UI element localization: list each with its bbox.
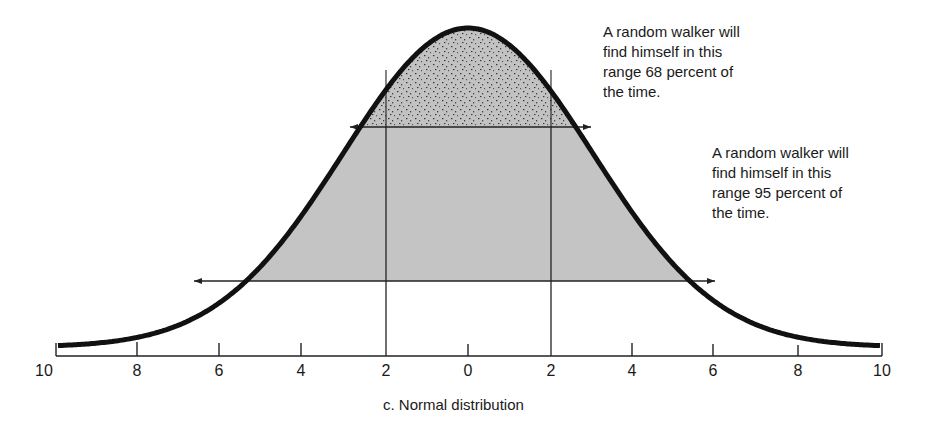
tick-label: 6 [215, 362, 224, 380]
tick-label: 4 [628, 362, 637, 380]
annotation-line: the time. [712, 203, 849, 223]
annotation-line: find himself in this [712, 163, 849, 183]
annotation-line: find himself in this [603, 42, 740, 62]
tick-label: 0 [464, 362, 473, 380]
tick-label: 6 [709, 362, 718, 380]
tick-label: 10 [35, 362, 53, 380]
annotation-68-percent: A random walker will find himself in thi… [603, 22, 740, 102]
annotation-line: range 68 percent of [603, 62, 740, 82]
annotation-line: A random walker will [712, 143, 849, 163]
annotation-line: A random walker will [603, 22, 740, 42]
tick-label: 4 [297, 362, 306, 380]
chart-caption: c. Normal distribution [383, 396, 524, 413]
tick-label: 2 [547, 362, 556, 380]
tick-label: 10 [873, 362, 891, 380]
tick-label: 8 [133, 362, 142, 380]
tick-label: 8 [794, 362, 803, 380]
tick-label: 2 [382, 362, 391, 380]
x-axis [56, 342, 882, 356]
annotation-line: range 95 percent of [712, 183, 849, 203]
annotation-line: the time. [603, 82, 740, 102]
range-68-fill [0, 0, 936, 127]
annotation-95-percent: A random walker will find himself in thi… [712, 143, 849, 223]
